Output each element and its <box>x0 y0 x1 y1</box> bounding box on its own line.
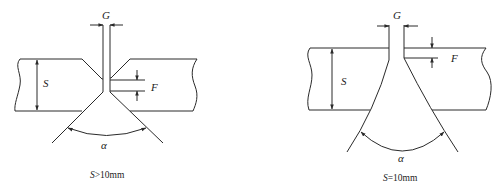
right-figure: G S F α S=10mm <box>308 9 491 183</box>
right-angle-label: α <box>398 152 404 164</box>
right-caption: S=10mm <box>383 173 418 183</box>
left-figure: G S F α S>10mm <box>15 9 197 180</box>
left-thickness-label: S <box>43 77 49 89</box>
left-rootface-label: F <box>150 81 158 93</box>
right-flank-r <box>404 58 458 152</box>
right-plate-left <box>308 48 389 110</box>
left-angle-arc <box>68 128 146 136</box>
left-plate-right <box>130 59 197 111</box>
right-rootface-label: F <box>450 52 458 64</box>
right-gap-label: G <box>393 9 401 21</box>
left-upper-bevel-r <box>110 25 130 78</box>
weld-joint-diagram: G S F α S>10mm G S <box>0 0 498 189</box>
right-plate-right <box>404 48 491 110</box>
right-angle-arc <box>361 132 444 151</box>
left-gap-label: G <box>102 9 110 21</box>
right-thickness-label: S <box>341 75 347 87</box>
left-upper-bevel <box>82 25 103 79</box>
left-angle-label: α <box>101 139 107 151</box>
left-caption: S>10mm <box>90 170 125 180</box>
